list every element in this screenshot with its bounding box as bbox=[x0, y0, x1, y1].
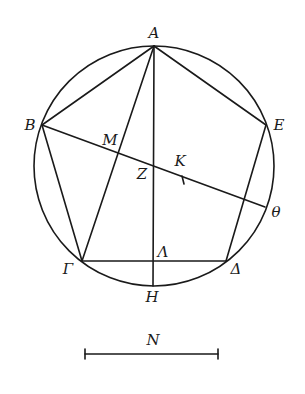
label-b: B bbox=[23, 116, 35, 134]
segment-a-b bbox=[42, 46, 154, 125]
diagram-canvas: ABEΓΔθHΛZMK N bbox=[0, 0, 305, 394]
segment-b-gamma bbox=[42, 125, 82, 261]
pentagon-diagram: ABEΓΔθHΛZMK N bbox=[0, 0, 305, 394]
scale-bar-label: N bbox=[145, 331, 160, 349]
segments bbox=[42, 46, 266, 286]
label-e: E bbox=[273, 116, 285, 134]
label-theta: θ bbox=[271, 203, 280, 221]
label-k: K bbox=[173, 152, 186, 170]
label-gamma: Γ bbox=[62, 260, 74, 278]
scale-bar-n: N bbox=[85, 331, 218, 359]
label-z: Z bbox=[136, 165, 148, 183]
label-a: A bbox=[147, 24, 160, 42]
label-delta: Δ bbox=[230, 260, 242, 278]
label-lambda: Λ bbox=[156, 243, 169, 261]
segment-e-delta bbox=[226, 125, 266, 261]
label-m: M bbox=[101, 131, 118, 149]
label-h: H bbox=[144, 288, 159, 306]
segment-a-e bbox=[154, 46, 266, 125]
